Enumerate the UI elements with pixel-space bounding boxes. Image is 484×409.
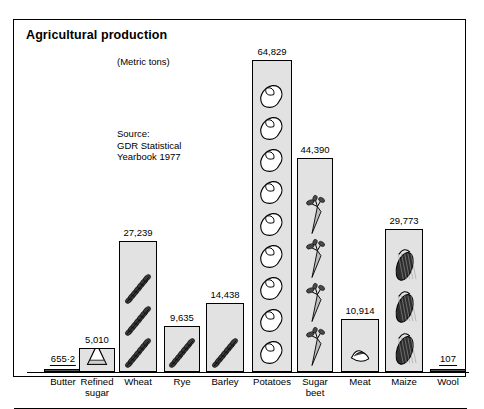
potato-icon <box>257 178 287 208</box>
bar-group: 655·2 <box>44 345 82 372</box>
bar-icon-stack <box>120 244 156 369</box>
bar-icon-stack <box>165 329 199 369</box>
bar <box>252 60 292 372</box>
bar-value-label: 9,635 <box>170 312 194 323</box>
bar-group: 14,438 <box>206 279 244 372</box>
chart-plot-area: 655·2Butter5,010Refined sugar27,239Wheat… <box>14 20 467 378</box>
sugar-beet-icon <box>300 326 330 368</box>
bar-value-label: 64,829 <box>257 46 286 57</box>
sugar-beet-icon <box>300 194 330 236</box>
bar-group: 27,239 <box>119 217 157 372</box>
bar-value-label: 10,914 <box>345 305 374 316</box>
bar-value-label: 107 <box>439 353 457 366</box>
bar <box>385 229 423 372</box>
bar-group: 44,390 <box>297 134 333 372</box>
sugar-beet-icon <box>300 282 330 324</box>
sugar-cone-icon <box>84 348 110 368</box>
bar-icon-stack <box>386 232 422 369</box>
bar-value-label: 44,390 <box>300 144 329 155</box>
sugar-beet-icon <box>300 238 330 280</box>
potato-icon <box>257 146 287 176</box>
bar-group: 9,635 <box>164 302 200 372</box>
bar-value-label: 29,773 <box>389 215 418 226</box>
potato-icon <box>257 114 287 144</box>
wheat-ear-icon <box>123 274 153 304</box>
bar <box>164 326 200 372</box>
bar <box>297 158 333 372</box>
chart-card: Agricultural production (Metric tons) So… <box>13 19 466 377</box>
maize-cob-icon <box>388 244 420 284</box>
bar-group: 29,773 <box>385 205 423 372</box>
bar <box>119 241 157 372</box>
bar-icon-stack <box>80 351 114 369</box>
bar-group: 64,829 <box>252 36 292 372</box>
bar-value-label: 27,239 <box>123 227 152 238</box>
potato-icon <box>257 210 287 240</box>
bar-icon-stack <box>342 322 378 369</box>
rye-ear-icon <box>167 338 197 368</box>
axis-baseline <box>27 372 469 373</box>
wheat-ear-icon <box>123 306 153 336</box>
bar-value-label: 655·2 <box>50 353 76 366</box>
category-label: Wool <box>422 376 474 387</box>
meat-cut-icon <box>348 344 372 368</box>
potato-icon <box>257 306 287 336</box>
maize-cob-icon <box>388 286 420 326</box>
bar-group: 107 <box>430 345 466 372</box>
potato-icon <box>257 242 287 272</box>
bar <box>206 303 244 372</box>
potato-icon <box>257 274 287 304</box>
potato-icon <box>257 82 287 112</box>
potato-icon <box>257 338 287 368</box>
bar-icon-stack <box>298 161 332 369</box>
bar-value-label: 5,010 <box>85 334 109 345</box>
bar <box>79 348 115 372</box>
wheat-ear-icon <box>123 338 153 368</box>
bar-group: 10,914 <box>341 295 379 372</box>
barley-ear-icon <box>210 338 240 368</box>
bar-value-label: 14,438 <box>210 289 239 300</box>
bar-group: 5,010 <box>79 324 115 372</box>
bar-icon-stack <box>207 306 243 369</box>
bar-icon-stack <box>253 63 291 369</box>
maize-cob-icon <box>388 328 420 368</box>
bar <box>341 319 379 372</box>
